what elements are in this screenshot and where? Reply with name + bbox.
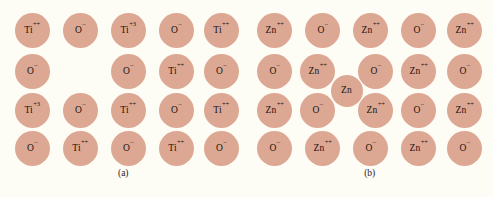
- ion-a-r3c5-symbol: Ti++: [213, 104, 228, 116]
- ion-a-r4c2-charge: ++: [81, 138, 88, 145]
- ion-b-r2c3: O–: [358, 54, 393, 89]
- ion-b-r1c4-symbol: O–: [413, 24, 423, 36]
- ion-a-r1c3-symbol: Ti+3: [121, 24, 136, 36]
- ion-a-r2c1-charge: –: [34, 61, 37, 68]
- ion-b-r4c1-charge: –: [277, 138, 280, 145]
- ion-a-r1c2-charge: –: [82, 20, 85, 27]
- ion-b-r3c1-charge: ++: [277, 100, 284, 107]
- ion-a-r1c5: Ti++: [204, 13, 239, 48]
- ion-b-r2c4-symbol: Zn++: [410, 65, 428, 77]
- ion-a-r3c2: O–: [63, 93, 98, 128]
- ion-a-r4c3-charge: –: [130, 138, 133, 145]
- ion-a-r2c5-charge: –: [223, 61, 226, 68]
- ion-b-r3c3: Zn++: [358, 93, 393, 128]
- ion-a-r3c3: Ti++: [111, 93, 146, 128]
- ion-b-r3c2-symbol: O–: [312, 104, 322, 116]
- ion-b-r3c4-symbol: O–: [413, 104, 423, 116]
- panel-b-caption: (b): [247, 168, 493, 178]
- ion-a-r3c2-charge: –: [82, 100, 85, 107]
- ion-a-r3c1-charge: +3: [33, 100, 40, 107]
- ion-a-r2c1-symbol: O–: [27, 65, 37, 77]
- panel-a-caption: (a): [0, 168, 247, 178]
- ion-b-r3c1: Zn++: [257, 93, 292, 128]
- ion-b-r1c2-charge: –: [325, 20, 328, 27]
- ion-b-r1c3: Zn++: [353, 13, 388, 48]
- ion-a-r4c5-symbol: O–: [216, 142, 226, 154]
- ion-a-r1c5-charge: ++: [222, 20, 229, 27]
- ion-a-r3c5: Ti++: [204, 93, 239, 128]
- ion-b-r2c1-symbol: O–: [269, 65, 279, 77]
- ion-b-r1c2: O–: [305, 13, 340, 48]
- ion-b-r4c2-symbol: Zn++: [314, 142, 332, 154]
- ion-a-r4c4-symbol: Ti++: [168, 142, 183, 154]
- ion-b-r4c4-symbol: Zn++: [410, 142, 428, 154]
- ion-a-r4c1: O–: [15, 131, 50, 166]
- ion-b-r4c3: O–: [353, 131, 388, 166]
- ion-a-r2c3-charge: –: [130, 61, 133, 68]
- ion-a-r1c2: O–: [63, 13, 98, 48]
- ion-a-r4c4: Ti++: [159, 131, 194, 166]
- defect-structure-figure: Ti++O–Ti+3O–Ti++O–O–Ti++O–Ti+3O–Ti++O–Ti…: [0, 0, 493, 197]
- ion-b-r2c2-symbol: Zn++: [309, 65, 327, 77]
- ion-b-r2c2-charge: ++: [320, 61, 327, 68]
- ion-b-r3c1-symbol: Zn++: [266, 104, 284, 116]
- ion-b-r2c1-charge: –: [277, 61, 280, 68]
- ion-a-r3c3-symbol: Ti++: [120, 104, 135, 116]
- ion-a-r3c4-charge: –: [178, 100, 181, 107]
- ion-b-r4c2: Zn++: [305, 131, 340, 166]
- ion-b-r4c4: Zn++: [401, 131, 436, 166]
- ion-b-r4c3-symbol: O–: [365, 142, 375, 154]
- ion-a-r1c1-charge: ++: [33, 20, 40, 27]
- ion-b-r3c4: O–: [401, 93, 436, 128]
- ion-b-r4c5-charge: –: [467, 138, 470, 145]
- ion-b-r2c3-charge: –: [378, 61, 381, 68]
- ion-b-r2c5-charge: –: [467, 61, 470, 68]
- panel-b: Zn++O–Zn++O–Zn++O–Zn++O–Zn++O–Zn++O–Zn++…: [247, 0, 493, 197]
- ion-a-r1c1: Ti++: [15, 13, 50, 48]
- ion-b-r1c1-symbol: Zn++: [266, 24, 284, 36]
- ion-a-r1c3: Ti+3: [111, 13, 146, 48]
- ion-a-r2c4-charge: ++: [177, 61, 184, 68]
- ion-b-r1c5: Zn++: [447, 13, 482, 48]
- ion-a-r4c5: O–: [204, 131, 239, 166]
- ion-a-r2c4-symbol: Ti++: [168, 65, 183, 77]
- ion-b-r1c5-symbol: Zn++: [456, 24, 474, 36]
- ion-a-r1c4-charge: –: [178, 20, 181, 27]
- ion-a-r2c3-symbol: O–: [123, 65, 133, 77]
- ion-a-r2c2-vacancy: [63, 54, 98, 89]
- ion-b-r1c3-charge: ++: [373, 20, 380, 27]
- ion-b-r2c5-symbol: O–: [459, 65, 469, 77]
- ion-a-r1c4: O–: [159, 13, 194, 48]
- ion-a-r3c5-charge: ++: [222, 100, 229, 107]
- ion-a-r3c4-symbol: O–: [171, 104, 181, 116]
- ion-b-interstitial-zn-symbol: Zn: [341, 86, 352, 96]
- ion-b-r4c1: O–: [257, 131, 292, 166]
- ion-a-r1c1-symbol: Ti++: [24, 24, 39, 36]
- ion-b-r4c5: O–: [447, 131, 482, 166]
- ion-a-r4c5-charge: –: [223, 138, 226, 145]
- ion-b-r2c1: O–: [257, 54, 292, 89]
- ion-b-r3c5-symbol: Zn++: [456, 104, 474, 116]
- ion-a-r2c4: Ti++: [159, 54, 194, 89]
- ion-b-r4c2-charge: ++: [325, 138, 332, 145]
- ion-b-r4c1-symbol: O–: [269, 142, 279, 154]
- ion-b-r3c5: Zn++: [447, 93, 482, 128]
- ion-b-r2c5: O–: [447, 54, 482, 89]
- ion-a-r3c4: O–: [159, 93, 194, 128]
- ion-b-r2c4-charge: ++: [421, 61, 428, 68]
- ion-b-r3c2: O–: [300, 93, 335, 128]
- ion-a-r1c5-symbol: Ti++: [213, 24, 228, 36]
- ion-a-r4c2: Ti++: [63, 131, 98, 166]
- ion-b-r1c4: O–: [401, 13, 436, 48]
- ion-a-r2c5-symbol: O–: [216, 65, 226, 77]
- ion-a-r3c3-charge: ++: [129, 100, 136, 107]
- ion-b-r1c5-charge: ++: [467, 20, 474, 27]
- ion-a-r4c3-symbol: O–: [123, 142, 133, 154]
- ion-b-r3c3-charge: ++: [378, 100, 385, 107]
- ion-b-r1c2-symbol: O–: [317, 24, 327, 36]
- ion-a-r2c1: O–: [15, 54, 50, 89]
- ion-a-r3c2-symbol: O–: [75, 104, 85, 116]
- ion-b-r1c3-symbol: Zn++: [362, 24, 380, 36]
- ion-b-r4c3-charge: –: [373, 138, 376, 145]
- ion-a-r4c3: O–: [111, 131, 146, 166]
